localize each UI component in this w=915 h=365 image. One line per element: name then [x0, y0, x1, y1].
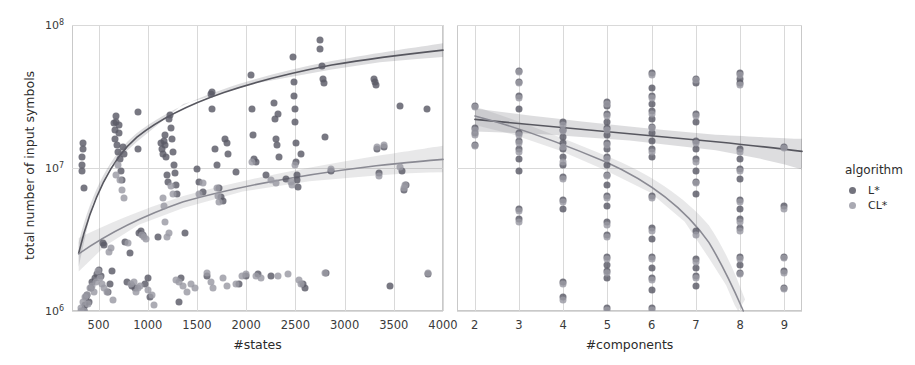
scatter-point	[298, 151, 305, 158]
scatter-point	[199, 180, 206, 187]
scatter-point	[184, 289, 191, 296]
scatter-point	[213, 185, 220, 192]
scatter-point	[386, 282, 393, 289]
x-axis-tick: 6	[648, 318, 655, 332]
scatter-point	[515, 68, 522, 75]
scatter-point	[195, 190, 202, 197]
x-axis-tick: 4	[559, 318, 566, 332]
legend-item-2[interactable]: CL*	[849, 198, 915, 213]
scatter-point	[648, 235, 655, 242]
y-axis-tick: 108	[20, 18, 64, 33]
scatter-point	[119, 144, 126, 151]
scatter-point	[560, 159, 567, 166]
scatter-point	[248, 71, 255, 78]
scatter-point	[176, 299, 183, 306]
scatter-point	[161, 132, 168, 139]
scatter-point	[79, 146, 86, 153]
scatter-point	[249, 159, 256, 166]
scatter-point	[127, 249, 134, 256]
scatter-point	[166, 230, 173, 237]
scatter-point	[290, 78, 297, 85]
scatter-point	[737, 198, 744, 205]
scatter-point	[223, 139, 230, 146]
scatter-point	[150, 302, 157, 309]
x-axis-tick: 9	[781, 318, 788, 332]
scatter-point	[108, 245, 115, 252]
scatter-point	[781, 254, 788, 261]
scatter-point	[560, 205, 567, 212]
scatter-point	[273, 141, 280, 148]
x-axis-tick: 8	[736, 318, 743, 332]
scatter-point	[148, 291, 155, 298]
scatter-point	[515, 208, 522, 215]
scatter-point	[648, 137, 655, 144]
scatter-point	[211, 146, 218, 153]
legend-item-group: L*CL*	[845, 183, 915, 213]
scatter-point	[515, 148, 522, 155]
scatter-point	[515, 80, 522, 87]
scatter-point	[109, 268, 116, 275]
y-axis-tick: 107	[20, 161, 64, 176]
scatter-point	[604, 256, 611, 263]
scatter-point	[292, 161, 299, 168]
scatter-point	[515, 167, 522, 174]
scatter-point	[471, 143, 478, 150]
x-axis-tick: 2000	[232, 318, 261, 332]
scatter-point	[380, 141, 387, 148]
scatter-point	[115, 121, 122, 128]
scatter-point	[604, 126, 611, 133]
scatter-point	[320, 80, 327, 87]
scatter-point	[318, 62, 325, 69]
scatter-point	[425, 269, 432, 276]
legend-marker-icon	[849, 187, 856, 194]
scatter-point	[515, 132, 522, 139]
scatter-point	[159, 194, 166, 201]
scatter-point	[560, 175, 567, 182]
scatter-point	[110, 296, 117, 303]
scatter-point	[515, 218, 522, 225]
scatter-point	[781, 144, 788, 151]
scatter-point	[144, 275, 151, 282]
scatter-point	[80, 308, 87, 312]
scatter-point	[604, 306, 611, 311]
scatter-point	[119, 187, 126, 194]
scatter-point	[515, 139, 522, 146]
scatter-point	[164, 171, 171, 178]
scatter-point	[90, 289, 97, 296]
scatter-point	[401, 182, 408, 189]
scatter-point	[692, 77, 699, 84]
scatter-point	[692, 159, 699, 166]
scatter-point	[515, 156, 522, 163]
scatter-point	[560, 198, 567, 205]
scatter-point	[257, 275, 264, 282]
scatter-point	[604, 113, 611, 120]
scatter-point	[327, 166, 334, 173]
scatter-point	[560, 144, 567, 151]
x-axis-tick: 3500	[379, 318, 408, 332]
scatter-point	[134, 109, 141, 116]
scatter-point	[604, 172, 611, 179]
scatter-point	[316, 37, 323, 44]
legend-item-label: CL*	[868, 199, 887, 212]
scatter-point	[136, 282, 143, 289]
legend-item-1[interactable]: L*	[849, 183, 915, 198]
scatter-point	[284, 271, 291, 278]
scatter-point	[737, 175, 744, 182]
scatter-point	[78, 168, 85, 175]
x-axis-tick: 1500	[182, 318, 211, 332]
scatter-point	[692, 180, 699, 187]
scatter-point	[166, 111, 173, 118]
scatter-point	[80, 185, 87, 192]
scatter-point	[154, 233, 161, 240]
scatter-point	[291, 105, 298, 112]
x-axis-label-states: #states	[233, 337, 282, 352]
scatter-point	[648, 194, 655, 201]
legend-item-label: L*	[868, 184, 880, 197]
scatter-point	[321, 133, 328, 140]
scatter-point	[243, 271, 250, 278]
scatter-point	[737, 156, 744, 163]
scatter-point	[692, 275, 699, 282]
scatter-point	[289, 182, 296, 189]
panel-components	[457, 25, 802, 311]
legend-marker-icon	[849, 202, 856, 209]
